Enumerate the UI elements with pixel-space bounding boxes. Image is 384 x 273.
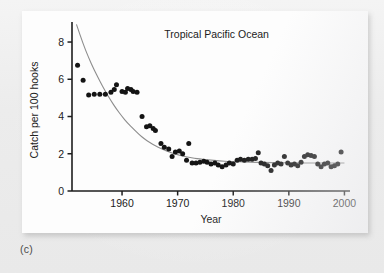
data-point	[180, 151, 185, 156]
scatter-chart: Tropical Pacific Ocean 02468196019701980…	[22, 11, 368, 233]
data-point	[184, 158, 189, 163]
chart-title: Tropical Pacific Ocean	[164, 28, 269, 40]
data-point	[135, 90, 140, 95]
x-tick-label: 2000	[333, 197, 357, 209]
y-tick-label: 6	[58, 73, 64, 85]
data-point	[86, 93, 91, 98]
data-point	[75, 63, 80, 68]
data-point	[282, 154, 287, 159]
x-tick-label: 1990	[277, 197, 301, 209]
y-tick-label: 8	[58, 36, 64, 48]
data-point	[325, 161, 330, 166]
data-point	[158, 141, 163, 146]
chart-panel: Tropical Pacific Ocean 02468196019701980…	[22, 11, 368, 233]
data-point	[166, 147, 171, 152]
y-tick-label: 2	[58, 148, 64, 160]
y-axis-label: Catch per 100 hooks	[28, 62, 40, 159]
data-point	[170, 154, 175, 159]
data-point	[279, 162, 284, 167]
data-point	[112, 87, 117, 92]
data-point	[81, 78, 86, 83]
data-point	[265, 163, 270, 168]
data-point	[269, 168, 274, 173]
data-point	[299, 160, 304, 165]
figure-root: Tropical Pacific Ocean 02468196019701980…	[0, 0, 384, 273]
data-point	[339, 149, 344, 154]
y-tick-label: 4	[58, 110, 64, 122]
data-point	[256, 150, 261, 155]
data-point	[186, 141, 191, 146]
data-point	[92, 92, 97, 97]
data-point	[312, 154, 317, 159]
data-point	[97, 92, 102, 97]
data-point	[114, 82, 119, 87]
data-point	[162, 145, 167, 150]
figure-caption: (c)	[20, 243, 33, 255]
data-point	[140, 114, 145, 119]
data-point	[295, 163, 300, 168]
x-tick-label: 1960	[110, 197, 134, 209]
data-point	[335, 162, 340, 167]
data-point	[231, 162, 236, 167]
data-point	[253, 156, 258, 161]
x-tick-label: 1980	[222, 197, 246, 209]
chart-tick-labels: 0246819601970198019902000	[58, 36, 356, 209]
data-point-group	[75, 63, 344, 173]
fitted-curve	[76, 24, 344, 163]
data-point	[153, 128, 158, 133]
x-tick-label: 1970	[166, 197, 190, 209]
chart-axes	[68, 22, 351, 196]
x-axis-label: Year	[200, 213, 222, 225]
y-tick-label: 0	[58, 185, 64, 197]
data-point	[103, 92, 108, 97]
